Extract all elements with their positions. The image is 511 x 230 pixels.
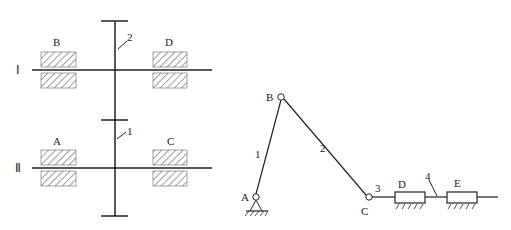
shaft-II-label: Ⅱ [15, 161, 21, 175]
slider-E [447, 192, 477, 203]
slider-E-ground [448, 204, 475, 209]
link-2-label: 2 [320, 142, 326, 154]
joint-A [253, 194, 259, 200]
slider-D-label: D [398, 178, 406, 190]
link-4-leader [429, 180, 437, 196]
joint-B [278, 94, 284, 100]
mechanism-diagrams: Ⅰ B D 2 Ⅱ A C 1 [0, 0, 511, 230]
shaft-I-label: Ⅰ [16, 63, 20, 77]
bearing-A-label: A [53, 135, 61, 147]
joint-B-label: B [266, 91, 273, 103]
joint-C [366, 194, 372, 200]
gear-shaft-diagram: Ⅰ B D 2 Ⅱ A C 1 [15, 21, 212, 216]
slider-D [395, 192, 425, 203]
bearing-D-label: D [165, 36, 173, 48]
gear-1-leader [117, 132, 126, 139]
gear-2-leader [118, 41, 127, 49]
link-3-label: 3 [375, 182, 381, 194]
linkage-diagram: A B C 1 2 3 D 4 E [241, 91, 498, 217]
joint-A-label: A [241, 191, 249, 203]
bearing-C-label: C [167, 135, 174, 147]
slider-D-ground [396, 204, 423, 209]
gear-2-label: 2 [127, 31, 133, 43]
link-1-label: 1 [255, 148, 261, 160]
joint-C-label: C [361, 205, 368, 217]
slider-E-label: E [454, 177, 461, 189]
link-1-crank [256, 100, 281, 194]
link-4-label: 4 [425, 170, 431, 182]
gear-1-label: 1 [127, 125, 133, 137]
bearing-B-label: B [53, 36, 60, 48]
